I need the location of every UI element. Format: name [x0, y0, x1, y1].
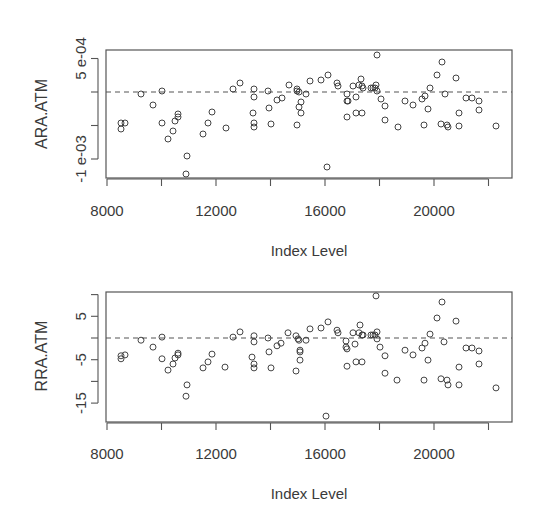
chart-canvas: ARA.ATM Index Level 80001200016000200005…: [0, 0, 560, 507]
data-point: [265, 88, 271, 94]
data-point: [463, 95, 469, 101]
data-point: [294, 122, 300, 128]
data-point: [200, 131, 206, 137]
data-point: [350, 83, 356, 89]
data-point: [285, 330, 291, 336]
data-point: [493, 385, 499, 391]
data-point: [251, 94, 257, 100]
figure: ARA.ATM Index Level 80001200016000200005…: [0, 0, 560, 507]
data-point: [422, 340, 428, 346]
data-point: [360, 85, 366, 91]
data-point: [150, 102, 156, 108]
data-point: [357, 322, 363, 328]
data-point: [425, 106, 431, 112]
data-point: [159, 88, 165, 94]
data-point: [438, 121, 444, 127]
data-point: [438, 376, 444, 382]
data-point: [230, 86, 236, 92]
data-point: [296, 104, 302, 110]
data-point: [297, 357, 303, 363]
data-point: [251, 124, 257, 130]
data-point: [410, 352, 416, 358]
data-point: [382, 370, 388, 376]
data-point: [456, 364, 462, 370]
data-point: [344, 363, 350, 369]
data-point: [344, 114, 350, 120]
data-point: [469, 345, 475, 351]
data-point: [222, 364, 228, 370]
data-point: [183, 393, 189, 399]
data-point: [427, 85, 433, 91]
data-point: [374, 52, 380, 58]
data-point: [237, 329, 243, 335]
data-point: [170, 361, 176, 367]
x-tick-label: 8000: [90, 202, 123, 219]
y-tick-label: -1 e-03: [72, 135, 89, 183]
data-point: [170, 128, 176, 134]
x-tick-label: 20000: [413, 202, 455, 219]
data-point: [184, 153, 190, 159]
data-point: [441, 339, 447, 345]
ara-atm-y-label: ARA.ATM: [33, 79, 50, 149]
data-point: [230, 334, 236, 340]
data-point: [434, 72, 440, 78]
data-point: [378, 96, 384, 102]
data-point: [150, 344, 156, 350]
data-point: [172, 118, 178, 124]
data-point: [251, 365, 257, 371]
ara-atm-x-label: Index Level: [271, 242, 348, 259]
data-point: [427, 331, 433, 337]
data-point: [298, 110, 304, 116]
data-point: [122, 120, 128, 126]
data-point: [469, 95, 475, 101]
data-point: [279, 95, 285, 101]
data-point: [395, 124, 401, 130]
data-point: [421, 122, 427, 128]
data-point: [266, 105, 272, 111]
data-point: [359, 359, 365, 365]
data-point: [324, 164, 330, 170]
data-point: [353, 110, 359, 116]
data-point: [373, 293, 379, 299]
data-point: [237, 80, 243, 86]
data-point: [159, 356, 165, 362]
data-point: [323, 413, 329, 419]
data-point: [318, 77, 324, 83]
x-tick-label: 8000: [90, 445, 123, 462]
data-point: [463, 345, 469, 351]
data-point: [325, 72, 331, 78]
data-point: [456, 382, 462, 388]
data-point: [410, 102, 416, 108]
data-point: [183, 171, 189, 177]
data-point: [159, 334, 165, 340]
x-tick-label: 20000: [413, 445, 455, 462]
data-point: [344, 346, 350, 352]
data-point: [350, 330, 356, 336]
data-point: [318, 325, 324, 331]
data-point: [200, 365, 206, 371]
data-point: [353, 359, 359, 365]
data-point: [251, 339, 257, 345]
data-point: [377, 344, 383, 350]
data-point: [184, 382, 190, 388]
data-point: [307, 326, 313, 332]
data-point: [425, 357, 431, 363]
data-point: [382, 117, 388, 123]
data-point: [442, 91, 448, 97]
data-point: [209, 351, 215, 357]
data-point: [205, 359, 211, 365]
data-point: [358, 76, 364, 82]
data-point: [165, 367, 171, 373]
data-point: [251, 86, 257, 92]
plot-frame: [106, 292, 512, 422]
x-tick-label: 16000: [304, 445, 346, 462]
data-point: [402, 347, 408, 353]
data-point: [476, 361, 482, 367]
data-point: [382, 103, 388, 109]
data-point: [250, 110, 256, 116]
data-point: [343, 338, 349, 344]
data-point: [402, 98, 408, 104]
data-point: [476, 348, 482, 354]
data-point: [249, 354, 255, 360]
ara-atm-panel: ARA.ATM Index Level 80001200016000200005…: [33, 37, 512, 259]
